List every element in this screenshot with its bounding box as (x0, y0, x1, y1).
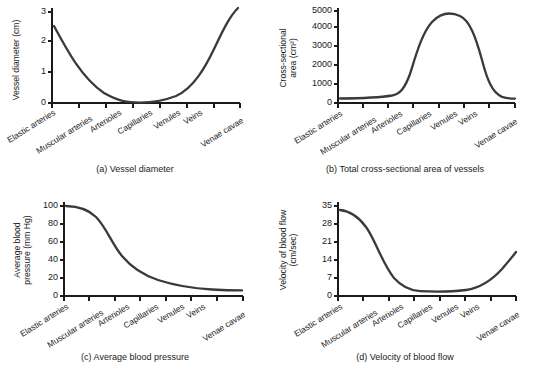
chart-c-ytick-4: 80 (48, 218, 58, 228)
chart-a-xcat-4: Venules (151, 107, 182, 131)
chart-a-ytick-1: 1 (41, 66, 46, 76)
chart-d-ytick-3: 21 (322, 236, 332, 246)
chart-a-ytick-2: 2 (41, 35, 46, 45)
chart-b-caption: (b) Total cross-sectional area of vessel… (270, 164, 540, 174)
chart-a-curve (54, 8, 238, 103)
chart-c-ytick-1: 20 (48, 272, 58, 282)
chart-c-ytick-0: 0 (53, 290, 58, 300)
chart-c-y-axis-title-line1: Average blood (12, 222, 22, 277)
chart-b-xcat-6: Venae cavae (473, 116, 520, 150)
chart-b-x-category-labels: Elastic arteries Muscular arteries Arter… (292, 108, 519, 157)
chart-c-svg: Average blood pressure (mm Hg) 0 20 40 6… (0, 188, 270, 375)
chart-c-curve (66, 206, 242, 290)
chart-panel-c-average-blood-pressure: Average blood pressure (mm Hg) 0 20 40 6… (0, 188, 270, 375)
chart-c-y-axis-title-line2: pressure (mm Hg) (22, 215, 32, 284)
chart-b-curve (340, 14, 515, 99)
chart-b-ytick-1: 1000 (312, 78, 332, 88)
chart-d-curve (340, 210, 516, 292)
chart-d-xcat-4: Venules (429, 301, 460, 325)
chart-b-ytick-5: 5000 (312, 5, 332, 15)
chart-c-caption: (c) Average blood pressure (0, 352, 270, 362)
chart-d-xcat-6: Venae cavae (475, 309, 522, 343)
chart-c-xcat-6: Venae cavae (201, 309, 248, 343)
chart-panel-d-velocity-of-blood-flow: Velocity of blood flow (cm/sec) 0 7 14 2… (270, 188, 540, 375)
chart-d-caption: (d) Velocity of blood flow (270, 352, 540, 362)
chart-c-xcat-4: Venules (155, 301, 186, 325)
chart-c-x-category-labels: Elastic arteries Muscular arteries Arter… (18, 301, 247, 350)
chart-a-xcat-3: Capillaries (116, 107, 154, 136)
chart-d-xcat-5: Veins (458, 301, 481, 320)
chart-d-ytick-1: 7 (327, 272, 332, 282)
chart-d-ytick-5: 35 (322, 200, 332, 210)
chart-panel-a-vessel-diameter: Vessel diameter (cm) 0 1 2 3 (0, 0, 270, 187)
chart-c-xcat-5: Veins (184, 301, 207, 320)
chart-d-x-category-labels: Elastic arteries Muscular arteries Arter… (292, 301, 521, 350)
chart-panel-b-cross-sectional-area: Cross-sectional area (cm²) 0 1000 2000 3… (270, 0, 540, 187)
chart-d-ytick-0: 0 (327, 290, 332, 300)
chart-b-svg: Cross-sectional area (cm²) 0 1000 2000 3… (270, 0, 540, 187)
chart-c-ytick-3: 60 (48, 236, 58, 246)
chart-d-y-axis-title-line1: Velocity of blood flow (278, 209, 288, 290)
chart-b-ytick-0: 0 (327, 97, 332, 107)
chart-a-caption: (a) Vessel diameter (0, 164, 270, 174)
chart-a-xcat-5: Veins (181, 107, 204, 126)
chart-a-ytick-0: 0 (41, 97, 46, 107)
chart-b-xcat-5: Veins (456, 108, 479, 127)
chart-b-y-axis-title-line2: area (cm²) (288, 38, 298, 78)
chart-b-ytick-2: 2000 (312, 59, 332, 69)
chart-a-y-axis-title: Vessel diameter (cm) (11, 20, 21, 101)
chart-a-svg: Vessel diameter (cm) 0 1 2 3 (0, 0, 270, 187)
chart-d-ytick-4: 28 (322, 218, 332, 228)
chart-d-svg: Velocity of blood flow (cm/sec) 0 7 14 2… (270, 188, 540, 375)
four-panel-chart-figure: Vessel diameter (cm) 0 1 2 3 (0, 0, 540, 375)
chart-d-y-axis-title-line2: (cm/sec) (288, 233, 298, 266)
chart-a-x-category-labels: Elastic arteries Muscular arteries Arter… (5, 107, 245, 156)
chart-c-ytick-2: 40 (48, 254, 58, 264)
chart-a-xcat-6: Venae cavae (199, 115, 246, 149)
chart-c-ytick-5: 100 (43, 200, 58, 210)
chart-b-ytick-3: 3000 (312, 40, 332, 50)
chart-a-ytick-3: 3 (41, 6, 46, 16)
chart-b-y-axis-title-line1: Cross-sectional (278, 28, 288, 87)
chart-b-xcat-4: Venules (428, 108, 459, 132)
chart-d-ytick-2: 14 (322, 254, 332, 264)
chart-b-ytick-4: 4000 (312, 21, 332, 31)
